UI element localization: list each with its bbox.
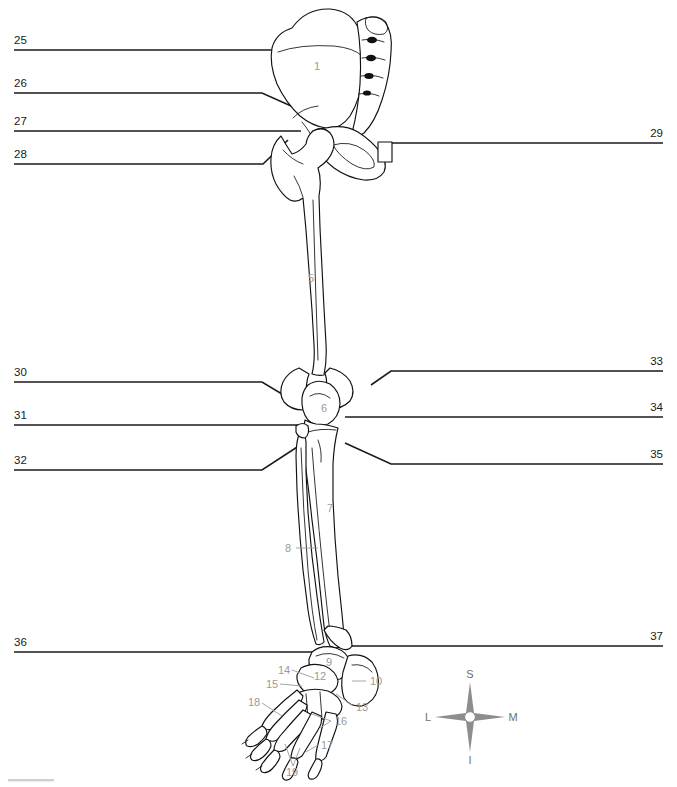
sacral-foramen-4 — [363, 90, 371, 95]
compass-label-inferior: I — [468, 754, 471, 766]
interior-number-12: 12 — [314, 670, 326, 682]
interior-number-19: 19 — [286, 766, 298, 778]
callout-number-33: 33 — [650, 355, 663, 367]
callout-number-27: 27 — [14, 115, 27, 127]
callout-number-36: 36 — [14, 636, 27, 648]
interior-number-14: 14 — [278, 664, 290, 676]
interior-number-1: 1 — [314, 60, 320, 72]
interior-number-8: 8 — [285, 542, 291, 554]
interior-number-15: 15 — [266, 678, 278, 690]
callout-number-28: 28 — [14, 148, 27, 160]
fibular-head — [296, 424, 309, 439]
callout-number-29: 29 — [650, 127, 663, 139]
sacral-foramen-2 — [366, 55, 376, 61]
callout-number-26: 26 — [14, 77, 27, 89]
sacral-foramen-1 — [367, 37, 377, 43]
callout-number-34: 34 — [650, 401, 663, 413]
callout-number-32: 32 — [14, 454, 27, 466]
callout-number-25: 25 — [14, 34, 27, 46]
anatomy-figure: 1 5 6 7 8 9 10 12 13 14 15 16 17 18 19 2… — [0, 0, 677, 787]
pubic-symphysis — [378, 142, 392, 162]
skeleton-diagram-svg: 1 5 6 7 8 9 10 12 13 14 15 16 17 18 19 2… — [0, 0, 677, 787]
sacral-foramen-3 — [364, 73, 373, 79]
compass-label-superior: S — [466, 668, 473, 680]
compass-label-lateral: L — [425, 711, 431, 723]
callout-number-37: 37 — [650, 630, 663, 642]
interior-number-13: 13 — [356, 701, 368, 713]
callout-number-30: 30 — [14, 366, 27, 378]
callout-number-31: 31 — [14, 409, 27, 421]
interior-number-10: 10 — [370, 675, 382, 687]
compass-hub-icon — [465, 712, 476, 723]
interior-number-5: 5 — [308, 272, 314, 284]
callout-number-35: 35 — [650, 448, 663, 460]
interior-number-9: 9 — [326, 656, 332, 668]
scan-edge-artifact — [8, 779, 54, 781]
compass-label-medial: M — [508, 711, 517, 723]
interior-number-18: 18 — [248, 696, 260, 708]
interior-number-7: 7 — [327, 502, 333, 514]
interior-number-17: 17 — [321, 739, 333, 751]
interior-number-6: 6 — [321, 402, 327, 414]
interior-number-16: 16 — [335, 715, 347, 727]
